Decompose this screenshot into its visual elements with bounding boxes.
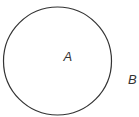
label-a: A — [63, 49, 73, 64]
label-b: B — [128, 72, 137, 87]
diagram-canvas: A B — [0, 0, 139, 117]
region-a-circle — [4, 7, 112, 115]
